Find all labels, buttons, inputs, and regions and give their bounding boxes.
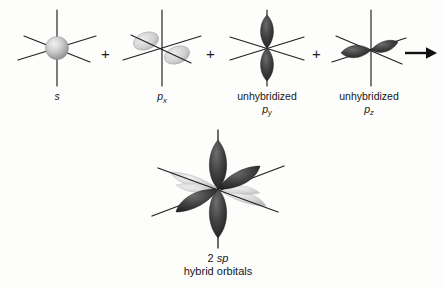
orbital-sp-hybrid-graphic [144,128,292,250]
label-orbital-pz: unhybridized pz [316,90,422,117]
orbital-py-graphic [224,8,310,88]
yields-arrow-icon [404,45,438,61]
orbital-hybridization-figure: s + px + [0,0,442,288]
orbital-s-graphic [14,8,100,88]
orbital-sp-hybrid [144,128,292,250]
orbital-py [224,8,310,88]
orbital-px [119,8,205,88]
plus-operator-1: + [101,46,110,61]
yields-arrow [404,45,438,61]
orbital-s [14,8,100,88]
orbital-pz [328,8,410,88]
label-orbital-py: unhybridized py [214,90,320,117]
plus-operator-2: + [206,46,215,61]
plus-operator-3: + [312,46,321,61]
caption-sp-hybrid: 2 sp hybrid orbitals [144,252,292,278]
label-orbital-px: px [119,90,205,105]
orbital-px-graphic [119,8,205,88]
label-orbital-s: s [14,90,100,103]
orbital-pz-graphic [328,8,410,88]
